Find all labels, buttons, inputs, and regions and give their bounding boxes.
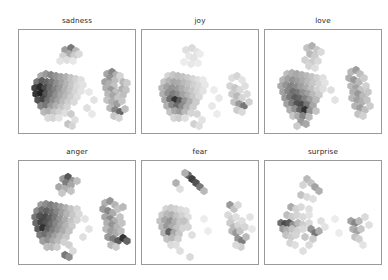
panel-title-fear: fear — [141, 143, 259, 160]
hexbin-cell — [327, 86, 334, 94]
hexbin-cell — [90, 96, 97, 104]
panel-title-love: love — [264, 12, 382, 29]
hexbin-cell — [186, 253, 193, 261]
hexbin-figure: sadness joy love anger fear — [0, 0, 388, 280]
hexbin-plot-joy — [142, 30, 259, 134]
axes-joy — [141, 29, 259, 134]
panel-joy: joy — [141, 12, 259, 134]
panel-anger: anger — [18, 143, 136, 265]
hexbin-plot-sadness — [19, 30, 136, 134]
panel-grid: sadness joy love anger fear — [0, 0, 388, 280]
hexbin-cell — [213, 110, 220, 118]
panel-fear: fear — [141, 143, 259, 265]
hexbin-plot-love — [265, 30, 382, 134]
panel-title-joy: joy — [141, 12, 259, 29]
panel-surprise: surprise — [264, 143, 382, 265]
hexbin-cell — [88, 110, 95, 118]
panel-sadness: sadness — [18, 12, 136, 134]
axes-anger — [18, 160, 136, 265]
hexbin-cell — [331, 96, 338, 104]
hexbin-cell — [299, 247, 306, 255]
hexbin-cell — [83, 104, 90, 112]
hexbin-cell — [180, 58, 187, 66]
hexbin-cell — [200, 215, 207, 223]
hexbin-cell — [79, 233, 86, 241]
hexbin-cell — [335, 229, 342, 237]
hexbin-cell — [188, 231, 195, 239]
hexbin-cell — [85, 88, 92, 96]
panel-title-surprise: surprise — [264, 143, 382, 160]
hexbin-cell — [365, 221, 372, 229]
axes-fear — [141, 160, 259, 265]
hexbin-cell — [208, 102, 215, 110]
hexbin-cell — [204, 227, 211, 235]
panel-love: love — [264, 12, 382, 134]
hexbin-cell — [85, 225, 92, 233]
hexbin-cell — [215, 94, 222, 102]
hexbin-plot-surprise — [265, 161, 382, 265]
hexbin-cell — [210, 86, 217, 94]
axes-surprise — [264, 160, 382, 265]
panel-title-anger: anger — [18, 143, 136, 160]
hexbin-cell — [301, 233, 308, 241]
axes-sadness — [18, 29, 136, 134]
panel-title-sadness: sadness — [18, 12, 136, 29]
axes-love — [264, 29, 382, 134]
hexbin-cell — [331, 215, 338, 223]
hexbin-cell — [248, 225, 255, 233]
hexbin-cell — [246, 213, 253, 221]
hexbin-plot-anger — [19, 161, 136, 265]
hexbin-plot-fear — [142, 161, 259, 265]
